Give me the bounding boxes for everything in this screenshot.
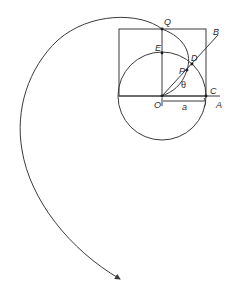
- label-e: E: [155, 43, 162, 53]
- spiral-diagram: Q E D B P θ O C A a: [0, 0, 236, 288]
- point-p: [186, 69, 189, 72]
- point-o: [161, 95, 164, 98]
- dimension-tick-right: [204, 98, 206, 107]
- outer-spiral-curve: [20, 17, 162, 279]
- label-p: P: [179, 66, 185, 76]
- label-theta: θ: [181, 80, 186, 90]
- point-d: [191, 63, 194, 66]
- point-c: [205, 95, 208, 98]
- label-a-length: a: [182, 102, 187, 112]
- label-o: O: [154, 100, 161, 110]
- point-e: [161, 52, 164, 55]
- label-a-point: A: [215, 100, 222, 110]
- label-q: Q: [164, 17, 171, 27]
- point-q: [161, 28, 164, 31]
- label-d: D: [191, 53, 198, 63]
- label-b: B: [213, 27, 219, 37]
- label-c: C: [210, 86, 217, 96]
